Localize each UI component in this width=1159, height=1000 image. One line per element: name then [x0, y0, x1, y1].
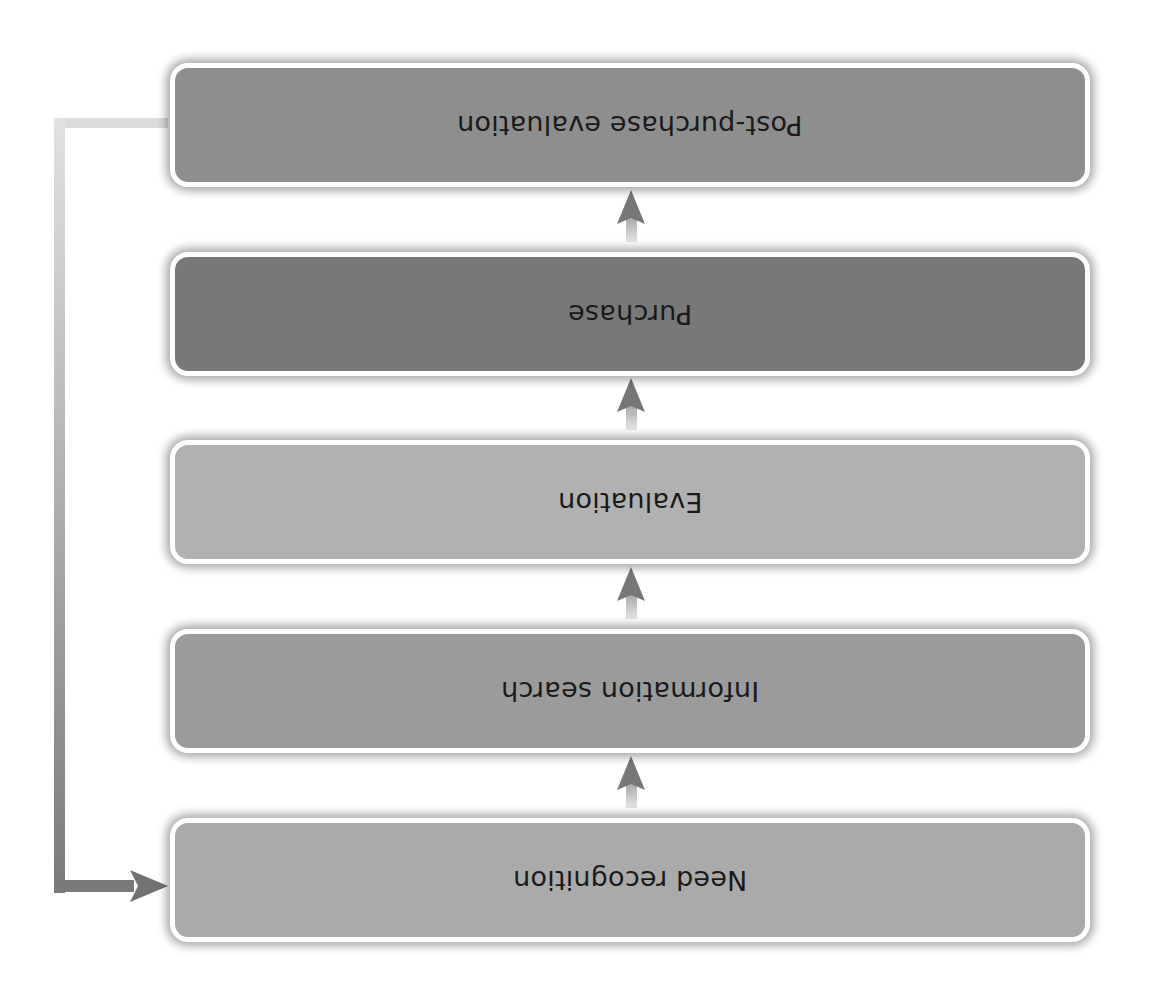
- stage-label: Evaluation: [558, 487, 702, 518]
- flow-arrow-4: [617, 190, 645, 242]
- stage-purchase: Purchase: [170, 252, 1090, 376]
- stage-need-recognition: Need recognition: [170, 818, 1090, 942]
- flow-arrow-2: [617, 567, 645, 619]
- stage-label: Information search: [501, 676, 759, 707]
- stage-information-search: Information search: [170, 629, 1090, 753]
- stage-label: Need recognition: [513, 865, 747, 896]
- flow-arrow-3: [617, 378, 645, 430]
- stage-post-purchase-evaluation: Post-purchase evaluation: [170, 63, 1090, 187]
- feedback-loop-arrow: [54, 118, 168, 902]
- stage-label: Post-purchase evaluation: [457, 110, 803, 141]
- consumer-decision-diagram: Post-purchase evaluation Purchase Evalua…: [0, 0, 1159, 1000]
- flow-arrow-1: [617, 756, 645, 808]
- stage-evaluation: Evaluation: [170, 440, 1090, 564]
- stage-label: Purchase: [568, 299, 692, 330]
